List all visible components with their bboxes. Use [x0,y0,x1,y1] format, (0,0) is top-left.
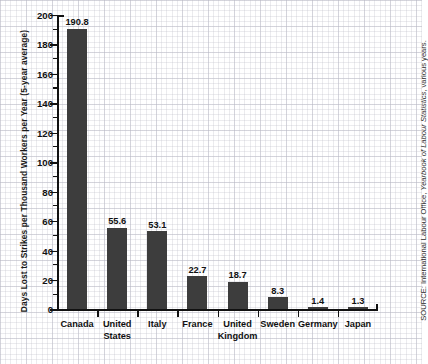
y-tick-minor [53,146,57,147]
y-tick-label: 20 [42,274,53,285]
bar [147,231,167,309]
y-tick-label: 140 [37,98,53,109]
bar [348,307,368,309]
bar [67,29,87,310]
source-prefix: SOURCE: International Labour Office, [419,191,428,321]
source-publication-title: Yearbook of Labour Statistics [419,92,428,191]
bar-value-label: 1.3 [351,296,364,306]
y-tick-label: 100 [37,157,53,168]
x-tick [137,311,138,317]
y-tick-label: 40 [42,245,53,256]
y-tick-minor [53,117,57,118]
bar-value-label: 18.7 [229,270,247,280]
x-axis-right-cap [376,304,378,311]
y-tick-label: 160 [37,68,53,79]
y-tick-label: 80 [42,186,53,197]
bar-value-label: 190.8 [65,17,88,27]
bar-value-label: 8.3 [271,286,284,296]
y-tick-label: 0 [48,304,53,315]
x-tick [218,311,219,317]
category-label: United Kingdom [218,319,258,342]
source-suffix: , various years. [419,40,428,92]
plot-area: 020406080100120140160180200 190.855.653.… [57,15,378,311]
bar-value-label: 1.4 [311,296,324,306]
y-tick-minor [53,264,57,265]
category-label: Germany [298,319,338,331]
category-label: France [182,319,212,331]
y-axis-line [57,15,59,311]
bar [107,228,127,310]
y-tick-minor [53,294,57,295]
bar [268,297,288,309]
y-tick-minor [53,176,57,177]
y-tick-minor [53,235,57,236]
source-note: SOURCE: International Labour Office, Yea… [419,16,428,346]
y-axis-top-cap [57,15,64,17]
x-tick [338,311,339,317]
y-tick-minor [53,205,57,206]
category-label: Japan [345,319,372,331]
x-tick [298,311,299,317]
bar-value-label: 55.6 [108,216,126,226]
y-tick-minor [53,29,57,30]
y-tick-label: 180 [37,39,53,50]
bar [187,276,207,309]
y-tick-label: 120 [37,127,53,138]
y-tick-label: 200 [37,10,53,21]
y-tick-label: 60 [42,216,53,227]
x-tick [97,311,98,317]
x-tick [258,311,259,317]
bar-value-label: 53.1 [148,220,166,230]
y-axis-title: Days Lost to Strikes per Thousand Worker… [19,21,29,321]
category-label: Canada [60,319,93,331]
bar-value-label: 22.7 [188,265,206,275]
category-label: Italy [148,319,166,331]
x-tick [177,311,178,317]
y-tick-minor [53,87,57,88]
y-tick-minor [53,58,57,59]
category-label: United States [103,319,132,342]
bar [308,307,328,309]
bar [228,282,248,310]
category-label: Sweden [260,319,295,331]
